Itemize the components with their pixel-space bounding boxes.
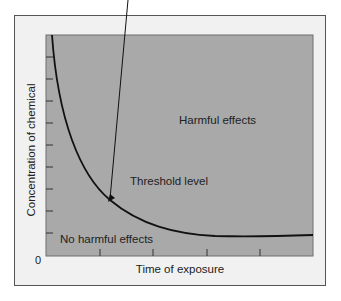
plot-area (0, 0, 341, 301)
plot-background (46, 35, 313, 256)
no-harmful-effects-label: No harmful effects (60, 233, 153, 245)
origin-label: 0 (35, 254, 41, 266)
x-axis-label: Time of exposure (136, 263, 224, 275)
threshold-level-label: Threshold level (130, 175, 208, 187)
harmful-effects-label: Harmful effects (179, 114, 256, 126)
y-axis-label: Concentration of chemical (25, 84, 37, 217)
